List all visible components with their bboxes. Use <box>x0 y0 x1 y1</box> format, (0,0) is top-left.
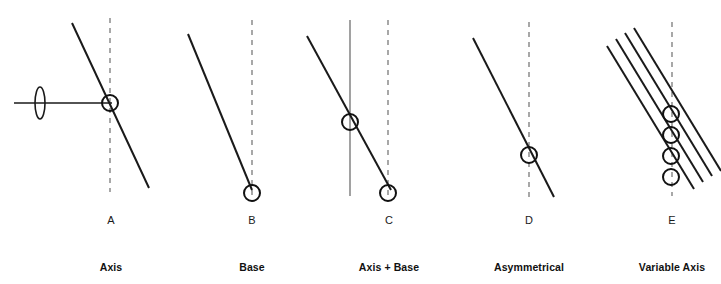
panel-caption-a: Axis <box>100 261 123 273</box>
panel-caption-b: Base <box>239 261 265 273</box>
panel-letter-e: E <box>668 214 676 226</box>
panel-letter-b: B <box>248 214 256 226</box>
panel-caption-d: Asymmetrical <box>494 261 564 273</box>
panel-e-diagonal-line-2 <box>616 39 703 182</box>
panel-b-diagonal-line <box>188 34 252 190</box>
panel-letter-d: D <box>525 214 533 226</box>
panel-caption-e: Variable Axis <box>639 261 705 273</box>
panel-a-diagonal-line <box>72 23 149 188</box>
panel-e-intersection-circle-1 <box>663 169 679 185</box>
figure-container: A Axis B Base C Axis + Base D Asymmetric… <box>0 0 721 284</box>
panel-c-graphic <box>307 20 396 201</box>
panel-a-graphic <box>14 18 149 192</box>
panel-d-graphic <box>473 22 554 198</box>
diagram-canvas <box>0 0 721 284</box>
panel-e-diagonal-line-1 <box>607 46 694 189</box>
panel-e-graphic <box>607 22 721 196</box>
panel-c-diagonal-line <box>307 36 391 190</box>
panel-b-graphic <box>188 20 260 201</box>
panel-caption-c: Axis + Base <box>359 261 419 273</box>
panel-letter-a: A <box>107 214 115 226</box>
panel-d-diagonal-line <box>473 38 554 197</box>
panel-e-diagonal-line-4 <box>634 28 721 171</box>
panel-e-diagonal-line-3 <box>625 33 712 176</box>
panel-letter-c: C <box>385 214 393 226</box>
